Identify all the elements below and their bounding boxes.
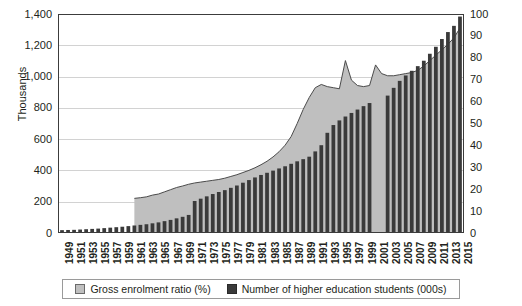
x-axis-tick-label: 1957 — [113, 242, 123, 264]
x-axis-tick-label: 1993 — [331, 242, 341, 264]
y-axis-tick-label: 1,000 — [24, 71, 52, 82]
y-axis-tick-label: 0 — [46, 228, 52, 239]
legend-swatch-icon-area — [75, 284, 85, 294]
x-axis-tick-label: 2015 — [464, 242, 474, 264]
chart-container: Thousands 02004006008001,0001,2001,400 0… — [0, 0, 522, 306]
bar — [96, 229, 100, 232]
y2-axis-tick-label: 40 — [470, 140, 482, 151]
bar — [193, 201, 197, 232]
y-axis-tick-label: 400 — [34, 165, 52, 176]
bar — [404, 75, 408, 232]
bar — [434, 47, 438, 232]
x-axis-tick-label: 1983 — [271, 242, 281, 264]
bar — [72, 230, 76, 232]
bar — [175, 218, 179, 232]
y2-axis-tick-label: 10 — [470, 206, 482, 217]
bar — [60, 230, 64, 232]
x-axis-tick-label: 1997 — [355, 242, 365, 264]
bar — [145, 224, 149, 232]
bar — [301, 159, 305, 232]
bar — [223, 190, 227, 232]
y-axis-right-tick-labels: 0102030405060708090100 — [467, 0, 517, 233]
bar — [398, 81, 402, 232]
bar — [307, 157, 311, 232]
bar — [452, 26, 456, 232]
bar — [338, 120, 342, 232]
bar — [271, 171, 275, 232]
bar — [169, 220, 173, 232]
x-axis-tick-label: 2005 — [404, 242, 414, 264]
x-axis-tick-labels: 1949195119531955195719591961196319651967… — [58, 236, 464, 276]
bar — [362, 106, 366, 232]
x-axis-tick-label: 1965 — [161, 242, 171, 264]
y2-axis-tick-label: 100 — [470, 9, 488, 20]
bar — [313, 151, 317, 232]
bar — [253, 177, 257, 232]
y-axis-tick-label: 800 — [34, 102, 52, 113]
bar — [199, 199, 203, 232]
bar — [205, 196, 209, 232]
x-axis-tick-label: 1975 — [222, 242, 232, 264]
x-axis-tick-label: 2013 — [452, 242, 462, 264]
chart-legend: Gross enrolment ratio (%) Number of high… — [62, 279, 460, 299]
bar — [416, 66, 420, 232]
bar — [217, 192, 221, 232]
bar — [368, 103, 372, 232]
bar — [283, 166, 287, 232]
x-axis-tick-label: 1955 — [101, 242, 111, 264]
legend-swatch-icon-bars — [227, 284, 237, 294]
bar — [325, 133, 329, 232]
x-axis-tick-label: 2003 — [392, 242, 402, 264]
bar — [331, 125, 335, 232]
x-axis-tick-label: 1951 — [77, 242, 87, 264]
y-axis-tick-label: 1,200 — [24, 40, 52, 51]
bar — [126, 226, 130, 232]
bar — [247, 180, 251, 232]
y2-axis-tick-label: 60 — [470, 96, 482, 107]
x-axis-tick-label: 1953 — [89, 242, 99, 264]
bar — [133, 225, 137, 232]
x-axis-tick-label: 1995 — [343, 242, 353, 264]
bar — [344, 117, 348, 232]
y2-axis-tick-label: 90 — [470, 30, 482, 41]
x-axis-tick-label: 1949 — [65, 242, 75, 264]
legend-item-gross-enrolment-ratio: Gross enrolment ratio (%) — [75, 284, 210, 295]
y2-axis-tick-label: 0 — [470, 228, 476, 239]
bar — [356, 110, 360, 232]
y2-axis-tick-label: 20 — [470, 184, 482, 195]
y-axis-left-tick-labels: 02004006008001,0001,2001,400 — [0, 0, 55, 233]
x-axis-tick-label: 1973 — [210, 242, 220, 264]
bar — [235, 185, 239, 232]
bar — [259, 175, 263, 232]
bar — [289, 164, 293, 232]
bar — [229, 188, 233, 232]
bar — [211, 194, 215, 232]
x-axis-tick-label: 1963 — [149, 242, 159, 264]
y2-axis-tick-label: 30 — [470, 162, 482, 173]
y2-axis-tick-label: 80 — [470, 52, 482, 63]
bar — [102, 228, 106, 232]
x-axis-tick-label: 1971 — [198, 242, 208, 264]
bar — [108, 228, 112, 232]
bar — [428, 54, 432, 232]
bar — [163, 221, 167, 232]
bar — [66, 230, 70, 232]
bar — [157, 222, 161, 232]
bar — [386, 96, 390, 232]
plot-area — [58, 14, 464, 233]
bar — [440, 39, 444, 232]
x-axis-tick-label: 1967 — [174, 242, 184, 264]
x-axis-tick-label: 1981 — [258, 242, 268, 264]
y2-axis-tick-label: 70 — [470, 74, 482, 85]
y-axis-tick-label: 200 — [34, 196, 52, 207]
bar — [422, 61, 426, 232]
bar — [277, 168, 281, 232]
y-axis-tick-label: 1,400 — [24, 9, 52, 20]
bar — [458, 17, 462, 232]
x-axis-tick-label: 1991 — [319, 242, 329, 264]
bar — [295, 161, 299, 232]
x-axis-tick-label: 2011 — [440, 242, 450, 264]
x-axis-tick-label: 1961 — [137, 242, 147, 264]
bar — [120, 227, 124, 232]
legend-label-higher-education-students: Number of higher education students (000… — [242, 284, 447, 295]
